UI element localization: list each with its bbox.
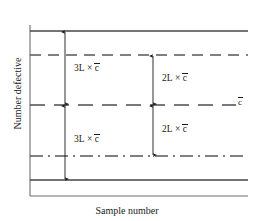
x-axis-label: Sample number xyxy=(0,205,254,216)
two-sigma-upper-prefix: 2L × xyxy=(162,73,183,83)
two-sigma-upper-label: 2L × c xyxy=(162,74,187,84)
center-line-label: c xyxy=(238,98,242,107)
three-sigma-lower-prefix: 3L × xyxy=(74,134,95,144)
three-sigma-upper-prefix: 3L × xyxy=(74,63,95,73)
control-chart-figure: 3L × c 3L × c 2L × c 2L × c c Sample num… xyxy=(0,0,254,221)
three-sigma-lower-label: 3L × c xyxy=(74,135,99,145)
center-line-cbar: c xyxy=(238,98,242,107)
two-sigma-lower-label: 2L × c xyxy=(162,125,187,135)
axis-frame xyxy=(30,25,248,196)
three-sigma-upper-cbar: c xyxy=(95,64,99,74)
three-sigma-upper-label: 3L × c xyxy=(74,64,99,74)
y-axis-label: Number defective xyxy=(12,29,23,159)
two-sigma-upper-cbar: c xyxy=(183,74,187,84)
two-sigma-lower-cbar: c xyxy=(183,125,187,135)
chart-canvas xyxy=(0,0,254,221)
two-sigma-lower-prefix: 2L × xyxy=(162,124,183,134)
three-sigma-lower-cbar: c xyxy=(95,135,99,145)
